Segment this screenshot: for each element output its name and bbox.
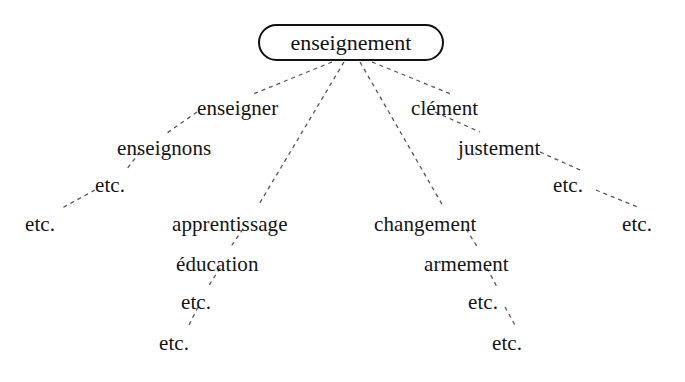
node-label[interactable]: armement — [424, 254, 509, 275]
node-label[interactable]: enseigner — [197, 98, 278, 119]
edge-etc1-etc2-d — [596, 190, 640, 208]
node-label[interactable]: changement — [374, 214, 476, 235]
node-label[interactable]: etc. — [181, 292, 211, 313]
edge-root-enseigner — [253, 62, 332, 94]
node-label[interactable]: etc. — [553, 175, 583, 196]
edge-etc1-etc2-c — [505, 307, 516, 327]
node-label[interactable]: apprentissage — [172, 214, 288, 235]
edge-etc1-etc2 — [62, 190, 95, 208]
node-label[interactable]: éducation — [176, 254, 259, 275]
node-label[interactable]: enseignons — [117, 138, 211, 159]
edge-root-clement — [372, 62, 451, 94]
edge-root-changement — [360, 62, 443, 206]
edge-root-apprentissage — [258, 62, 344, 206]
node-label[interactable]: etc. — [492, 333, 522, 354]
node-label[interactable]: justement — [458, 138, 541, 159]
node-label[interactable]: etc. — [95, 175, 125, 196]
edge-enseigner-enseignons — [167, 112, 197, 133]
node-label[interactable]: clément — [411, 98, 478, 119]
edge-justement-etc1 — [540, 152, 580, 170]
root-node-label: enseignement — [291, 32, 412, 54]
diagram-canvas: enseignement enseignerenseignonsetc.etc.… — [0, 0, 685, 382]
node-label[interactable]: etc. — [622, 214, 652, 235]
node-label[interactable]: etc. — [159, 333, 189, 354]
node-label[interactable]: etc. — [25, 214, 55, 235]
root-node[interactable]: enseignement — [258, 24, 444, 61]
node-label[interactable]: etc. — [468, 292, 498, 313]
